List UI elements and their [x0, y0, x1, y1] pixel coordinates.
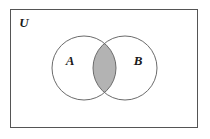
set-label-a: A — [65, 53, 75, 68]
set-label-b: B — [133, 53, 143, 68]
universe-label: U — [19, 15, 29, 30]
venn-diagram-canvas: U A B — [0, 0, 210, 139]
venn-diagram-figure: U A B — [0, 0, 210, 139]
